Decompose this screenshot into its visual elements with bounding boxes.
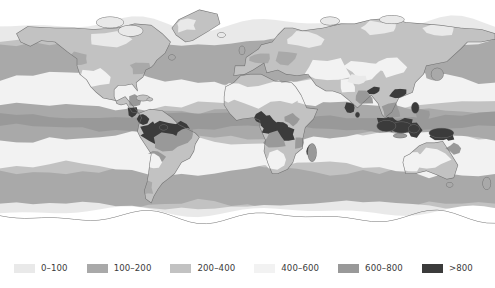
legend-swatch-icon [338, 264, 359, 273]
legend-label: 0–100 [41, 264, 68, 273]
legend: 0–100 100–200 200–400 400–600 600–800 >8… [0, 256, 495, 280]
legend-label: 200–400 [197, 264, 235, 273]
legend-item-200-400: 200–400 [170, 264, 235, 273]
figure-page: 0–100 100–200 200–400 400–600 600–800 >8… [0, 0, 495, 288]
legend-item-400-600: 400–600 [254, 264, 319, 273]
legend-label: 100–200 [114, 264, 152, 273]
legend-item-0-100: 0–100 [14, 264, 68, 273]
legend-label: >800 [449, 264, 473, 273]
map-canvas [0, 0, 495, 252]
legend-swatch-icon [170, 264, 191, 273]
legend-swatch-icon [14, 264, 35, 273]
legend-label: 600–800 [365, 264, 403, 273]
legend-label: 400–600 [281, 264, 319, 273]
legend-swatch-icon [254, 264, 275, 273]
legend-item-100-200: 100–200 [87, 264, 152, 273]
legend-item-over-800: >800 [422, 264, 473, 273]
legend-swatch-icon [87, 264, 108, 273]
legend-item-600-800: 600–800 [338, 264, 403, 273]
legend-swatch-icon [422, 264, 443, 273]
world-precipitation-map [0, 0, 495, 252]
